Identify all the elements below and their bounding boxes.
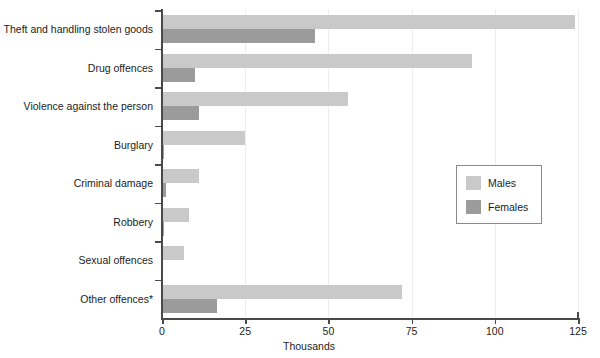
category-label: Robbery bbox=[0, 217, 153, 228]
x-axis-tick bbox=[578, 318, 580, 324]
category-row: Violence against the person bbox=[162, 87, 578, 126]
legend-swatch-females bbox=[466, 200, 481, 214]
bar-males bbox=[162, 169, 199, 183]
category-row: Theft and handling stolen goods bbox=[162, 10, 578, 49]
category-row: Other offences* bbox=[162, 280, 578, 319]
category-row: Sexual offences bbox=[162, 241, 578, 280]
x-axis-title: Thousands bbox=[0, 341, 600, 352]
bar-females bbox=[162, 106, 199, 120]
legend-item-males[interactable]: Males bbox=[466, 176, 516, 190]
x-axis-tick bbox=[328, 318, 330, 324]
category-label: Violence against the person bbox=[0, 101, 153, 112]
bar-females bbox=[162, 183, 166, 197]
x-axis-tick-label: 25 bbox=[239, 326, 251, 337]
x-axis-tick-label: 125 bbox=[569, 326, 587, 337]
x-axis-tick-label: 50 bbox=[323, 326, 335, 337]
bar-males bbox=[162, 15, 575, 29]
bar-males bbox=[162, 285, 402, 299]
category-label: Theft and handling stolen goods bbox=[0, 24, 153, 35]
x-axis-tick bbox=[412, 318, 414, 324]
x-axis-line bbox=[161, 318, 579, 320]
category-label: Burglary bbox=[0, 140, 153, 151]
x-axis-tick bbox=[245, 318, 247, 324]
x-axis-title-label: Thousands bbox=[283, 341, 335, 352]
chart-legend: MalesFemales bbox=[456, 165, 542, 224]
bar-males bbox=[162, 54, 472, 68]
category-row: Burglary bbox=[162, 126, 578, 165]
category-label: Other offences* bbox=[0, 294, 153, 305]
legend-item-females[interactable]: Females bbox=[466, 200, 528, 214]
category-row: Drug offences bbox=[162, 49, 578, 88]
legend-label: Females bbox=[488, 202, 528, 213]
y-axis-line bbox=[161, 9, 163, 319]
x-axis-tick bbox=[162, 318, 164, 324]
bar-males bbox=[162, 246, 184, 260]
x-axis-tick bbox=[495, 318, 497, 324]
bar-males bbox=[162, 92, 348, 106]
bar-females bbox=[162, 68, 195, 82]
bar-females bbox=[162, 299, 217, 313]
category-label: Sexual offences bbox=[0, 255, 153, 266]
gridline bbox=[578, 10, 579, 318]
legend-label: Males bbox=[488, 178, 516, 189]
x-axis-tick-label: 0 bbox=[159, 326, 165, 337]
x-axis-tick-label: 75 bbox=[406, 326, 418, 337]
bar-males bbox=[162, 131, 245, 145]
bar-females bbox=[162, 29, 315, 43]
x-axis-tick-label: 100 bbox=[486, 326, 504, 337]
category-label: Drug offences bbox=[0, 63, 153, 74]
legend-swatch-males bbox=[466, 176, 481, 190]
bar-males bbox=[162, 208, 189, 222]
plot-area: Theft and handling stolen goodsDrug offe… bbox=[162, 10, 578, 318]
category-label: Criminal damage bbox=[0, 178, 153, 189]
bar-chart: Theft and handling stolen goodsDrug offe… bbox=[0, 0, 600, 358]
